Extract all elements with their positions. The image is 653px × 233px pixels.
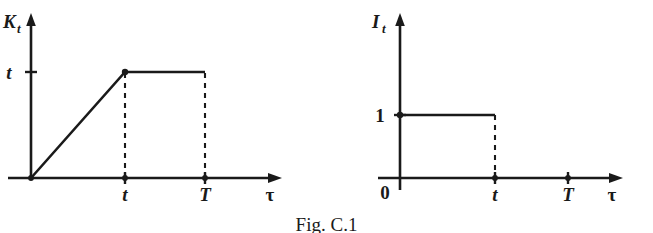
it-xtick-label-T: T	[562, 184, 575, 205]
kt-y-axis	[26, 13, 36, 178]
figure-root: K t t t T τ	[0, 0, 653, 233]
kt-plot-svg: K t t t T τ	[0, 0, 330, 210]
it-ytick-label-1: 1	[375, 105, 385, 126]
it-yaxis-label: I	[371, 11, 380, 32]
kt-yaxis-label: K	[2, 11, 17, 32]
it-y-axis	[395, 13, 405, 190]
kt-point-t-on-axis	[122, 175, 128, 181]
it-xtick-label-t: t	[492, 184, 498, 205]
it-point-start	[397, 112, 403, 118]
chart-panel-it: I t 1 0 t T τ	[330, 0, 653, 210]
kt-data-curve	[31, 72, 205, 178]
kt-point-knee	[122, 69, 128, 75]
kt-xtick-label-t: t	[122, 184, 128, 205]
it-origin-label: 0	[380, 182, 390, 203]
it-x-axis	[378, 173, 623, 183]
it-yaxis-label-subscript: t	[382, 21, 386, 36]
kt-yaxis-label-subscript: t	[17, 21, 21, 36]
it-plot-svg: I t 1 0 t T τ	[330, 0, 653, 210]
it-point-t-on-axis	[492, 175, 498, 181]
figure-caption: Fig. C.1	[0, 214, 653, 233]
it-point-T-on-axis	[565, 175, 571, 181]
it-xaxis-label-tau: τ	[608, 184, 617, 205]
kt-point-origin	[28, 175, 34, 181]
kt-ytick-label-t: t	[6, 62, 12, 83]
chart-panel-kt: K t t t T τ	[0, 0, 330, 210]
kt-xtick-label-T: T	[199, 184, 212, 205]
kt-point-T-on-axis	[202, 175, 208, 181]
kt-xaxis-label-tau: τ	[266, 184, 275, 205]
kt-x-axis	[8, 173, 282, 183]
